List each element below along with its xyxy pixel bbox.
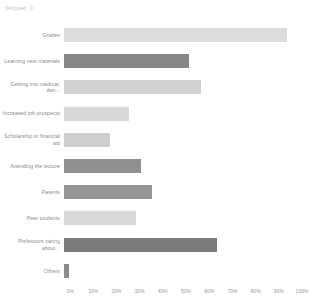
- bar-track: [64, 153, 296, 179]
- bar-row: Others: [0, 258, 312, 284]
- x-tick-label: 50%: [181, 288, 191, 294]
- category-label: Professors caring about...: [0, 238, 64, 251]
- bar[interactable]: [64, 211, 136, 225]
- bar[interactable]: [64, 107, 129, 121]
- x-tick-label: 20%: [111, 288, 121, 294]
- x-tick-label: 70%: [227, 288, 237, 294]
- bar-track: [64, 48, 296, 74]
- bar-row: Learning new materials: [0, 48, 312, 74]
- bar-row: Increased job prospects: [0, 101, 312, 127]
- bar-row: Professors caring about...: [0, 232, 312, 258]
- category-label: Increased job prospects: [0, 110, 64, 116]
- bar[interactable]: [64, 28, 287, 42]
- category-label: Scholarship or financial aid: [0, 133, 64, 146]
- bar-row: Scholarship or financial aid: [0, 127, 312, 153]
- x-axis-ticks: 0%10%20%30%40%50%60%70%80%90%100%: [70, 288, 302, 298]
- category-label: Peer students: [0, 215, 64, 221]
- bar[interactable]: [64, 54, 189, 68]
- bar[interactable]: [64, 238, 217, 252]
- bar-row: Parents: [0, 179, 312, 205]
- bar[interactable]: [64, 159, 141, 173]
- bar[interactable]: [64, 264, 69, 278]
- x-tick-label: 30%: [135, 288, 145, 294]
- bar[interactable]: [64, 133, 110, 147]
- bar-track: [64, 127, 296, 153]
- bar-track: [64, 179, 296, 205]
- x-tick-label: 60%: [204, 288, 214, 294]
- bar-track: [64, 22, 296, 48]
- bar[interactable]: [64, 185, 152, 199]
- bar-track: [64, 232, 296, 258]
- bar-row: Attending the lecture: [0, 153, 312, 179]
- x-tick-label: 0%: [66, 288, 73, 294]
- bar-track: [64, 74, 296, 100]
- category-label: Learning new materials: [0, 58, 64, 64]
- category-label: Parents: [0, 189, 64, 195]
- x-tick-label: 10%: [88, 288, 98, 294]
- x-tick-label: 80%: [251, 288, 261, 294]
- x-tick-label: 90%: [274, 288, 284, 294]
- bar[interactable]: [64, 80, 201, 94]
- bar-track: [64, 101, 296, 127]
- bar-row: Peer students: [0, 205, 312, 231]
- category-label: Grades: [0, 32, 64, 38]
- bar-track: [64, 205, 296, 231]
- x-tick-label: 100%: [296, 288, 309, 294]
- skipped-count-label: Skipped: 0: [5, 5, 33, 11]
- bar-track: [64, 258, 296, 284]
- bar-row: Grades: [0, 22, 312, 48]
- x-tick-label: 40%: [158, 288, 168, 294]
- category-label: Others: [0, 268, 64, 274]
- category-label: Getting into medical, den...: [0, 81, 64, 94]
- bar-row: Getting into medical, den...: [0, 74, 312, 100]
- category-label: Attending the lecture: [0, 163, 64, 169]
- bar-chart: GradesLearning new materialsGetting into…: [0, 22, 312, 284]
